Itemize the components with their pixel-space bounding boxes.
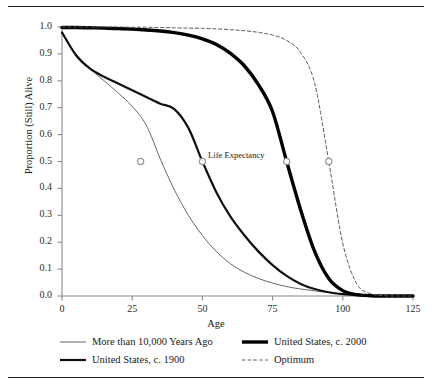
legend-line-swatch-icon [242,337,268,347]
legend-line-swatch-icon [242,355,268,365]
life-expectancy-marker-3 [326,158,332,164]
y-tick-label: 0.3 [22,208,52,219]
y-tick-label: 0.7 [22,101,52,112]
y-tick-label: 0.4 [22,181,52,192]
x-tick-label: 0 [42,303,82,314]
y-tick-label: 0.1 [22,262,52,273]
y-tick-label: 0.9 [22,47,52,58]
legend-line-swatch-icon [60,355,86,365]
x-axis-title: Age [0,318,432,329]
figure-container: Proportion (Still) Alive Age 0.00.10.20.… [0,0,432,392]
legend-item[interactable]: United States, c. 2000 [242,333,366,351]
legend-item-label: More than 10,000 Years Ago [92,337,213,348]
legend-item[interactable]: More than 10,000 Years Ago [60,333,213,351]
x-tick-label: 50 [182,303,222,314]
life-expectancy-marker-2 [284,158,290,164]
series-line-1 [62,32,413,296]
y-tick-label: 1.0 [22,20,52,31]
legend-item-label: United States, c. 2000 [274,337,366,348]
legend-line-swatch-icon [60,337,86,347]
legend-item[interactable]: United States, c. 1900 [60,351,184,369]
x-tick-label: 25 [112,303,152,314]
life-expectancy-marker-1 [199,158,205,164]
y-tick-label: 0.5 [22,155,52,166]
series-line-0 [62,34,413,296]
y-tick-label: 0.0 [22,289,52,300]
legend-item[interactable]: Optimum [242,351,314,369]
x-tick-label: 75 [253,303,293,314]
chart-legend: More than 10,000 Years AgoUnited States,… [52,333,422,373]
series-line-3 [62,27,413,296]
axis-layer [58,27,414,301]
y-tick-label: 0.6 [22,128,52,139]
life-expectancy-annotation: Life Expectancy [208,150,265,160]
legend-item-label: Optimum [274,355,314,366]
legend-item-label: United States, c. 1900 [92,355,184,366]
life-expectancy-marker-0 [138,158,144,164]
y-tick-label: 0.8 [22,74,52,85]
curve-layer [62,27,413,296]
x-tick-label: 100 [323,303,363,314]
y-tick-label: 0.2 [22,235,52,246]
x-tick-label: 125 [393,303,432,314]
series-line-2 [62,28,413,297]
